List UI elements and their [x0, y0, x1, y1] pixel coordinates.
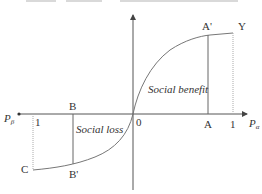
label-B: B: [69, 100, 76, 112]
label-C: C: [21, 163, 28, 175]
label-P-beta: Pβ: [3, 112, 15, 126]
label-A: A: [204, 118, 212, 130]
label-A-prime: A': [202, 20, 212, 32]
label-social-benefit: Social benefit: [148, 83, 209, 95]
label-Y: Y: [238, 20, 246, 32]
label-right-one: 1: [230, 118, 236, 130]
label-social-loss: Social loss: [76, 123, 123, 135]
x-axis-left-end-icon: [17, 112, 20, 115]
cropped-caption: [26, 0, 238, 2]
welfare-diagram: A' Y A 1 Pα Pβ 1 B 0 C B' Social benefit…: [0, 0, 262, 194]
label-left-one: 1: [35, 116, 41, 128]
label-B-prime: B': [69, 168, 78, 180]
label-P-alpha: Pα: [248, 117, 260, 131]
label-origin: 0: [136, 116, 142, 128]
